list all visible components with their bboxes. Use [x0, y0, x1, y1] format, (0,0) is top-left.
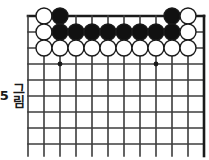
black-stone[interactable]: [52, 24, 68, 40]
white-stone[interactable]: [36, 24, 52, 40]
black-stone[interactable]: [100, 24, 116, 40]
black-stone[interactable]: [116, 24, 132, 40]
black-stone[interactable]: [164, 24, 180, 40]
white-stone[interactable]: [100, 40, 116, 56]
star-point: [154, 62, 159, 67]
go-board[interactable]: [0, 0, 209, 160]
black-stone[interactable]: [68, 24, 84, 40]
white-stone[interactable]: [36, 40, 52, 56]
white-stone[interactable]: [116, 40, 132, 56]
white-stone[interactable]: [148, 40, 164, 56]
white-stone[interactable]: [36, 8, 52, 24]
black-stone[interactable]: [84, 24, 100, 40]
black-stone[interactable]: [148, 24, 164, 40]
go-diagram-figure: 그림 5: [0, 0, 209, 160]
white-stone[interactable]: [84, 40, 100, 56]
white-stone[interactable]: [164, 40, 180, 56]
star-point: [58, 62, 63, 67]
white-stone[interactable]: [68, 40, 84, 56]
black-stone[interactable]: [52, 8, 68, 24]
black-stone[interactable]: [132, 24, 148, 40]
white-stone[interactable]: [52, 40, 68, 56]
black-stone[interactable]: [164, 8, 180, 24]
white-stone[interactable]: [180, 40, 196, 56]
figure-caption-label: 그림: [11, 82, 24, 108]
white-stone[interactable]: [180, 24, 196, 40]
figure-caption: 그림 5: [6, 82, 24, 108]
white-stone[interactable]: [180, 8, 196, 24]
white-stone[interactable]: [132, 40, 148, 56]
